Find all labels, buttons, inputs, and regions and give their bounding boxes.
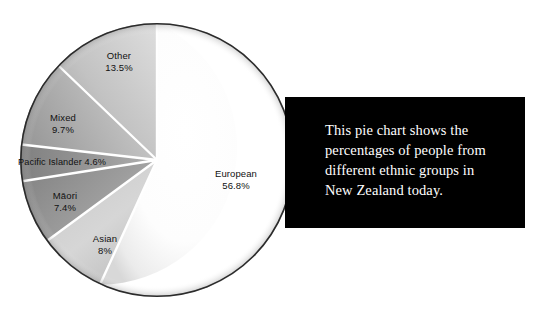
slice-label-european-pct: 56.8%: [196, 180, 276, 192]
slice-label-pacific-islander: Pacific Islander 4.6%: [18, 157, 122, 169]
caption-text: This pie chart shows the percentages of …: [325, 120, 513, 200]
slice-label-maori-name: Māori: [53, 190, 77, 201]
slice-label-mixed-pct: 9.7%: [28, 124, 98, 136]
slice-label-european: European 56.8%: [196, 168, 276, 191]
caption-box: This pie chart shows the percentages of …: [285, 97, 525, 228]
slice-label-mixed: Mixed 9.7%: [28, 112, 98, 135]
slice-label-maori: Māori 7.4%: [34, 190, 96, 213]
caption-line-4: New Zealand today.: [325, 180, 513, 200]
slice-label-asian-pct: 8%: [74, 245, 136, 257]
caption-line-1: This pie chart shows the: [325, 120, 513, 140]
slice-label-asian: Asian 8%: [74, 233, 136, 256]
slice-label-asian-name: Asian: [93, 233, 117, 244]
slice-label-other: Other 13.5%: [82, 50, 156, 73]
slice-label-european-name: European: [215, 168, 257, 179]
slice-label-maori-pct: 7.4%: [34, 202, 96, 214]
slice-label-other-pct: 13.5%: [82, 62, 156, 74]
slice-label-pacific-islander-name: Pacific Islander: [18, 157, 82, 167]
caption-line-2: percentages of people from: [325, 140, 513, 160]
slice-label-mixed-name: Mixed: [50, 112, 76, 123]
caption-line-3: different ethnic groups in: [325, 160, 513, 180]
slice-label-other-name: Other: [107, 50, 131, 61]
pie-chart-figure: European 56.8% Other 13.5% Mixed 9.7% Pa…: [0, 0, 553, 317]
pie-chart: European 56.8% Other 13.5% Mixed 9.7% Pa…: [0, 0, 320, 317]
slice-label-pacific-islander-pct: 4.6%: [85, 157, 106, 167]
